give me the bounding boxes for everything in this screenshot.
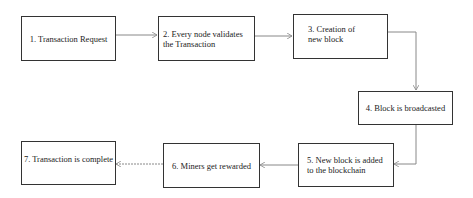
step-1-label: 1. Transaction Request xyxy=(30,34,108,44)
arrow-3-to-4 xyxy=(387,32,416,90)
step-6-label: 6. Miners get rewarded xyxy=(172,161,251,171)
step-4-broadcast-block: 4. Block is broadcasted xyxy=(358,91,453,125)
step-5-add-to-blockchain: 5. New block is added to the blockchain xyxy=(298,143,394,187)
step-6-miners-rewarded: 6. Miners get rewarded xyxy=(163,143,260,188)
step-7-label: 7. Transaction is complete xyxy=(24,154,113,164)
step-5-label: 5. New block is added to the blockchain xyxy=(299,155,393,175)
arrow-4-to-5 xyxy=(394,125,416,164)
step-2-label: 2. Every node validates the Transaction xyxy=(159,29,254,49)
step-3-label: 3. Creation of new block xyxy=(294,24,387,44)
step-1-transaction-request: 1. Transaction Request xyxy=(21,16,116,61)
step-7-transaction-complete: 7. Transaction is complete xyxy=(21,141,116,185)
step-4-label: 4. Block is broadcasted xyxy=(366,103,445,113)
step-3-create-block: 3. Creation of new block xyxy=(293,14,388,59)
step-2-nodes-validate: 2. Every node validates the Transaction xyxy=(158,16,255,61)
